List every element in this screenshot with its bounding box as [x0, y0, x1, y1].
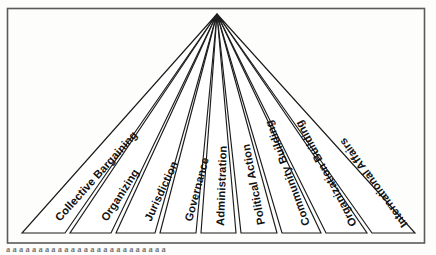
figure-root: Collective Bargaining Organizing Jurisdi…: [0, 0, 436, 255]
fan-diagram: Collective Bargaining Organizing Jurisdi…: [0, 0, 436, 255]
caption-strip: a a a a a a a a a a a a a a a a a a a a …: [0, 246, 436, 255]
figure-caption: a a a a a a a a a a a a a a a a a a a a …: [6, 246, 436, 255]
